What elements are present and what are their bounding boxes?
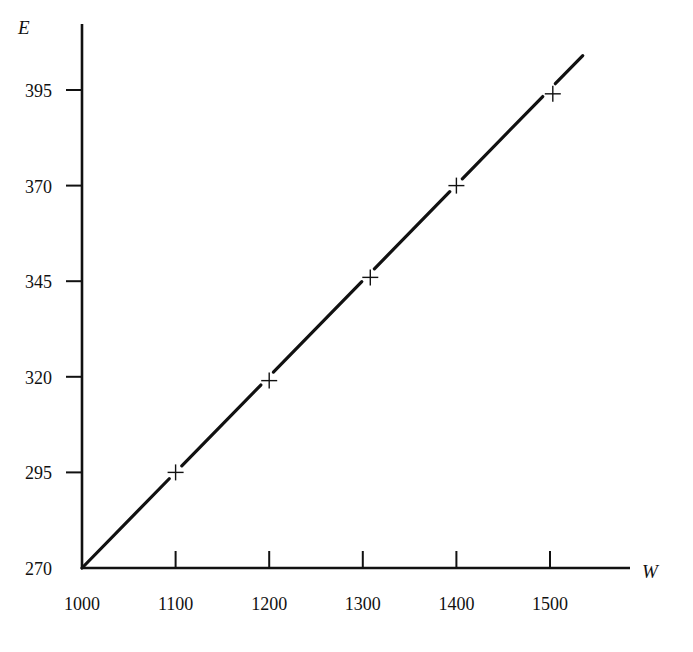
y-tick-label: 270	[25, 559, 52, 579]
y-axis-title: E	[17, 17, 30, 38]
plot-area: 1000110012001300140015002702953203453703…	[25, 24, 630, 614]
y-tick-label: 370	[25, 177, 52, 197]
fit-line-segment	[273, 282, 361, 372]
x-tick-label: 1000	[64, 594, 100, 614]
chart-figure: 1000110012001300140015002702953203453703…	[0, 0, 693, 652]
fit-line-segment	[182, 385, 261, 466]
fit-line-segment	[374, 192, 449, 269]
fit-line-segment	[462, 97, 542, 179]
fit-line-segment	[82, 479, 169, 568]
x-tick-label: 1200	[251, 594, 287, 614]
x-axis-title: W	[642, 561, 660, 582]
y-tick-label: 295	[25, 463, 52, 483]
x-tick-label: 1500	[532, 594, 568, 614]
fit-line-segment	[555, 56, 582, 84]
y-tick-label: 345	[25, 272, 52, 292]
x-tick-label: 1400	[438, 594, 474, 614]
x-tick-label: 1100	[158, 594, 193, 614]
x-tick-label: 1300	[345, 594, 381, 614]
y-tick-label: 395	[25, 81, 52, 101]
y-tick-label: 320	[25, 368, 52, 388]
